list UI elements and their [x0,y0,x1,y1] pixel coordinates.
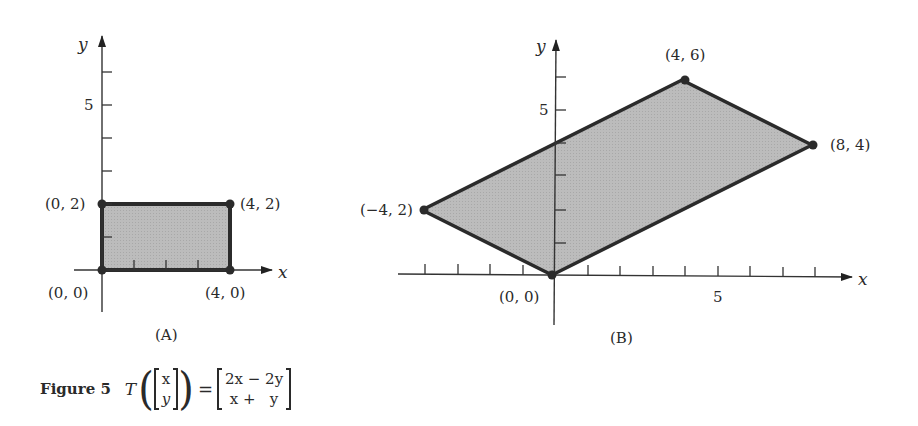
vertex-label-0-0: (0, 0) [499,288,539,306]
vertex-dot [98,200,107,209]
vertex-label-4-6: (4, 6) [665,46,705,64]
left-paren: ( [138,367,154,411]
panel-a-caption: (A) [155,326,178,344]
figure-caption: Figure 5 T ( x y ) = 2x − 2y x + y [40,368,291,410]
transform-name: T [125,379,136,399]
panel-a-y-axis-label: y [77,34,88,54]
vertex-label-4-0: (4, 0) [205,284,245,302]
output-row-2: x + y [225,389,283,409]
vertex-dot [809,141,818,150]
panel-b-x-tick-5: 5 [713,288,723,306]
panel-b-y-tick-5: 5 [539,101,549,119]
vertex-label-neg4-2: (−4, 2) [360,201,413,219]
panel-a: y x 5 (0, 2) (4, 2) (0, 0) (4, 0) (A) [45,34,288,344]
right-paren: ) [178,367,194,411]
output-row-1: 2x − 2y [225,369,283,389]
vertex-label-0-2: (0, 2) [45,195,85,213]
vertex-dot [226,266,235,275]
panel-a-x-axis-label: x [278,262,288,282]
output-vector: 2x − 2y x + y [217,368,291,410]
panel-b-y-axis-label: y [535,36,546,56]
equals-sign: = [198,379,213,400]
input-x: x [162,369,170,389]
figure-label: Figure 5 [40,380,111,398]
vertex-dot [548,271,557,280]
panel-b-y-axis [554,40,556,325]
vertex-label-0-0: (0, 0) [48,284,88,302]
panel-b-x-axis-label: x [858,269,868,289]
panel-b-caption: (B) [610,329,633,347]
panel-b-parallelogram [422,80,812,275]
vertex-dot [226,200,235,209]
input-vector: x y [154,368,178,410]
panel-b-x-axis [398,274,852,277]
figure-canvas: y x 5 (0, 2) (4, 2) (0, 0) (4, 0) (A) [0,0,918,426]
vertex-label-4-2: (4, 2) [240,195,280,213]
input-y: y [162,389,170,409]
panel-a-y-tick-5: 5 [84,96,94,114]
panel-b: y x 5 5 (4, 6) (8, 4) (−4, 2) (0, 0) (B) [360,36,870,347]
vertex-dot [681,76,690,85]
vertex-label-8-4: (8, 4) [830,136,870,154]
vertex-dot [98,266,107,275]
vertex-dot [420,206,429,215]
